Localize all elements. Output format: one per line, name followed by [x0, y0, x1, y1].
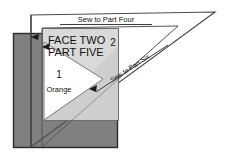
label-part-five: PART FIVE — [48, 46, 104, 58]
label-piece-one-fabric: Orange — [46, 85, 71, 94]
label-face-two: FACE TWO — [48, 34, 106, 46]
face-two-part-five-diagram: Sew to Part Four FACE TWO PART FIVE 2 1 … — [0, 0, 229, 164]
label-sew-to-part-four: Sew to Part Four — [78, 15, 135, 24]
label-piece-one-number: 1 — [56, 69, 62, 80]
label-piece-two-number: 2 — [110, 37, 116, 48]
pattern-diagram-canvas: Sew to Part Four FACE TWO PART FIVE 2 1 … — [0, 0, 229, 164]
